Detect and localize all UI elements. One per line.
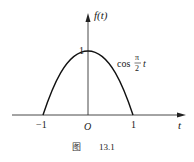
- annotation-numerator: π: [135, 53, 139, 62]
- x-tick-1: 1: [131, 119, 136, 130]
- x-axis-label: t: [178, 119, 182, 131]
- curve-annotation: cos π 2 t: [117, 53, 146, 73]
- y-tick-1: 1: [79, 45, 84, 56]
- chart-canvas: f(t) t 1 −1 O 1 cos π 2 t 图 13.1: [0, 0, 194, 162]
- caption-prefix: 图: [72, 142, 81, 152]
- origin-label: O: [84, 121, 91, 132]
- y-axis-arrow-icon: [86, 13, 91, 22]
- annotation-cos: cos: [117, 58, 130, 69]
- x-axis-arrow-icon: [177, 113, 186, 118]
- x-tick-neg-1: −1: [36, 119, 47, 130]
- annotation-variable: t: [143, 58, 146, 69]
- caption-number: 13.1: [99, 142, 115, 152]
- annotation-denominator: 2: [135, 64, 139, 73]
- y-axis-label: f(t): [94, 9, 108, 22]
